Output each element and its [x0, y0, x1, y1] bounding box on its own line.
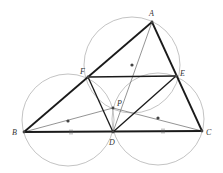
label-P: P — [116, 99, 122, 108]
label-A: A — [148, 9, 154, 18]
point-D-dot — [112, 131, 115, 134]
label-B: B — [12, 128, 17, 137]
center-dot-right — [156, 116, 159, 119]
segment-FE — [88, 76, 176, 77]
center-dot-left — [66, 119, 69, 122]
point-P-dot — [112, 107, 115, 110]
segment-FD — [88, 77, 113, 132]
point-E-dot — [175, 75, 178, 78]
point-A-dot — [151, 21, 154, 24]
segment-ED — [113, 76, 176, 132]
label-C: C — [206, 128, 212, 137]
point-C-dot — [201, 130, 204, 133]
geometry-diagram: A F E P B C D — [0, 0, 223, 173]
point-F-dot — [87, 76, 90, 79]
point-B-dot — [23, 131, 26, 134]
center-dot-top — [130, 63, 133, 66]
label-F: F — [79, 67, 85, 76]
label-E: E — [179, 69, 185, 78]
label-D: D — [108, 138, 115, 147]
